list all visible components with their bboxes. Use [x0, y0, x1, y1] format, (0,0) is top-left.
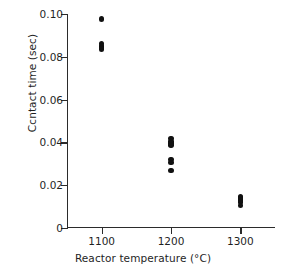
x-tick-mark [102, 227, 103, 234]
x-tick-label: 1200 [158, 235, 185, 247]
data-point [99, 46, 104, 51]
x-axis-title: Reactor temperature (°C) [0, 252, 286, 264]
data-point [99, 16, 104, 21]
plot-area: 00.020.040.060.080.10 110012001300 [67, 14, 275, 228]
x-tick-label: 1300 [227, 235, 254, 247]
y-tick-label: 0.08 [40, 51, 63, 63]
y-tick-label: 0 [56, 222, 63, 234]
data-point [238, 203, 243, 208]
data-point [168, 160, 173, 165]
x-tick-label: 1100 [88, 235, 115, 247]
x-tick-mark [171, 227, 172, 234]
y-tick-label: 0.06 [40, 94, 63, 106]
y-axis-title: Ccntact time (sec) [26, 3, 38, 163]
data-point [168, 142, 173, 147]
y-tick-label: 0.04 [40, 136, 63, 148]
x-tick-mark [240, 227, 241, 234]
data-point [168, 168, 173, 173]
y-tick-label: 0.02 [40, 179, 63, 191]
scatter-plot-figure: Ccntact time (sec) Reactor temperature (… [0, 0, 286, 275]
y-tick-label: 0.10 [40, 8, 63, 20]
y-axis-line [67, 14, 68, 228]
